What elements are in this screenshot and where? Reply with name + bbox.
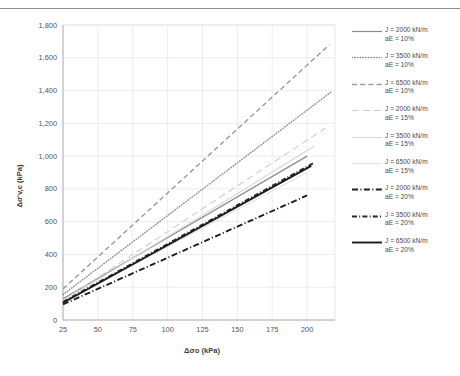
x-tick-label: 25: [59, 325, 67, 334]
y-tick-label: 400: [45, 250, 57, 259]
y-axis-ticks: 02004006008001,0001,2001,4001,6001,800: [39, 21, 58, 325]
legend-label-line1: J = 2000 kN/m: [385, 26, 428, 35]
legend-label-line2: aE = 20%: [385, 246, 428, 255]
legend-label-line2: aE = 15%: [385, 140, 428, 149]
x-tick-label: 75: [129, 325, 137, 334]
legend-line-swatch-icon: [352, 106, 382, 115]
legend-item[interactable]: J = 2000 kN/maE = 10%: [352, 26, 458, 43]
legend-label-line2: aE = 10%: [385, 61, 428, 70]
legend-item-label: J = 6500 kN/maE = 15%: [385, 158, 428, 175]
legend-label-line2: aE = 15%: [385, 167, 428, 176]
legend-label-line2: aE = 10%: [385, 35, 428, 44]
series-line-3: [63, 128, 325, 300]
legend-label-line1: J = 2000 kN/m: [385, 184, 428, 193]
legend-item-label: J = 2000 kN/maE = 20%: [385, 184, 428, 201]
y-axis-title: Δσ'v,c (kPa): [15, 164, 24, 208]
legend-label-line1: J = 3500 kN/m: [385, 52, 428, 61]
legend-label-line1: J = 6500 kN/m: [385, 237, 428, 246]
legend-item-label: J = 3500 kN/maE = 15%: [385, 132, 428, 149]
y-tick-label: 600: [45, 217, 57, 226]
legend-item-label: J = 3500 kN/maE = 10%: [385, 52, 428, 69]
legend-label-line2: aE = 20%: [385, 193, 428, 202]
legend-label-line2: aE = 10%: [385, 87, 428, 96]
legend-label-line1: J = 6500 kN/m: [385, 158, 428, 167]
legend-item[interactable]: J = 3500 kN/maE = 15%: [352, 132, 458, 149]
legend-item[interactable]: J = 6500 kN/maE = 15%: [352, 158, 458, 175]
legend-item-label: J = 6500 kN/maE = 10%: [385, 79, 428, 96]
x-tick-label: 175: [266, 325, 278, 334]
legend-label-line1: J = 3500 kN/m: [385, 211, 428, 220]
legend-line-swatch-icon: [352, 185, 382, 194]
y-tick-label: 1,000: [39, 152, 58, 161]
legend-line-swatch-icon: [352, 53, 382, 62]
legend-line-swatch-icon: [352, 238, 382, 247]
y-tick-label: 800: [45, 184, 57, 193]
legend-item-label: J = 6500 kN/maE = 20%: [385, 237, 428, 254]
legend-line-swatch-icon: [352, 212, 382, 221]
chart-figure: 255075100125150175200 02004006008001,000…: [0, 14, 460, 366]
series-line-4: [63, 146, 314, 301]
legend-item[interactable]: J = 2000 kN/maE = 15%: [352, 105, 458, 122]
legend-line-swatch-icon: [352, 27, 382, 36]
y-tick-label: 200: [45, 283, 57, 292]
series-line-8: [63, 166, 311, 303]
legend-item[interactable]: J = 6500 kN/maE = 20%: [352, 237, 458, 254]
legend-item-label: J = 3500 kN/maE = 20%: [385, 211, 428, 228]
series-line-1: [63, 92, 331, 294]
y-tick-label: 0: [53, 316, 57, 325]
legend-item[interactable]: J = 6500 kN/maE = 10%: [352, 79, 458, 96]
x-tick-label: 125: [196, 325, 208, 334]
legend-item[interactable]: J = 3500 kN/maE = 20%: [352, 211, 458, 228]
legend-label-line2: aE = 15%: [385, 114, 428, 123]
legend-line-swatch-icon: [352, 80, 382, 89]
series-line-6: [63, 195, 307, 304]
y-tick-label: 1,800: [39, 21, 58, 30]
top-divider: [0, 8, 460, 9]
x-tick-label: 200: [301, 325, 313, 334]
x-axis-title: Δσo (kPa): [184, 346, 220, 355]
y-tick-label: 1,600: [39, 53, 58, 62]
legend-line-swatch-icon: [352, 133, 382, 142]
legend-item[interactable]: J = 3500 kN/maE = 10%: [352, 52, 458, 69]
x-tick-label: 50: [94, 325, 102, 334]
legend-line-swatch-icon: [352, 159, 382, 168]
data-series-layer: [63, 45, 331, 305]
chart-legend: J = 2000 kN/maE = 10%J = 3500 kN/maE = 1…: [352, 26, 458, 264]
legend-label-line1: J = 6500 kN/m: [385, 79, 428, 88]
legend-item[interactable]: J = 2000 kN/maE = 20%: [352, 184, 458, 201]
x-tick-label: 100: [161, 325, 173, 334]
legend-label-line1: J = 2000 kN/m: [385, 105, 428, 114]
legend-label-line2: aE = 20%: [385, 219, 428, 228]
x-axis-ticks: 255075100125150175200: [59, 325, 313, 334]
legend-label-line1: J = 3500 kN/m: [385, 132, 428, 141]
x-tick-label: 150: [231, 325, 243, 334]
legend-item-label: J = 2000 kN/maE = 10%: [385, 26, 428, 43]
y-tick-label: 1,400: [39, 86, 58, 95]
y-tick-label: 1,200: [39, 119, 58, 128]
legend-item-label: J = 2000 kN/maE = 15%: [385, 105, 428, 122]
